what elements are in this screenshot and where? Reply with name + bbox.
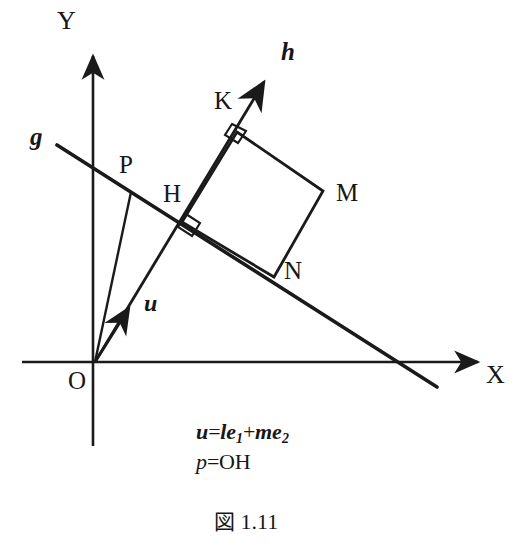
formula-e2-subscript: 2 xyxy=(282,431,289,446)
vector-u-label: u xyxy=(144,291,157,315)
formula-m-coefficient: m xyxy=(255,419,272,444)
point-label-h: H xyxy=(163,181,181,206)
formula-e2-symbol: e xyxy=(272,419,282,444)
origin-label: O xyxy=(68,368,86,393)
formula-p-definition: p=OH xyxy=(196,448,456,476)
formula-e1-subscript: 1 xyxy=(236,431,243,446)
segment-op xyxy=(95,192,131,362)
formula-plus-operator: + xyxy=(243,419,255,444)
formula-p-equals: = xyxy=(207,449,219,474)
formula-block: u=le1+me2 p=OH xyxy=(196,418,456,475)
rectangle-hkmn xyxy=(182,132,323,277)
point-label-n: N xyxy=(284,258,302,283)
formula-u-symbol: u xyxy=(196,419,208,444)
figure-caption: 図 1.11 xyxy=(214,505,278,535)
caption-number: 1.11 xyxy=(241,509,279,534)
line-h-label: h xyxy=(281,39,295,64)
formula-e1-symbol: e xyxy=(226,419,236,444)
y-axis-label: Y xyxy=(57,8,76,34)
point-label-p: P xyxy=(119,152,133,177)
formula-oh-segment: OH xyxy=(219,449,251,474)
formula-u-equals: = xyxy=(208,419,220,444)
formula-u-decomposition: u=le1+me2 xyxy=(196,418,456,448)
x-axis-label: X xyxy=(486,362,505,388)
line-g-label: g xyxy=(30,124,43,149)
formula-p-symbol: p xyxy=(196,449,207,474)
point-label-m: M xyxy=(336,180,358,205)
figure-container: Y X O g h u P H K M N u=le1+me2 p=OH 図 1… xyxy=(0,0,523,548)
line-g xyxy=(57,145,437,387)
point-label-k: K xyxy=(214,88,232,113)
caption-kanji: 図 xyxy=(214,510,235,534)
